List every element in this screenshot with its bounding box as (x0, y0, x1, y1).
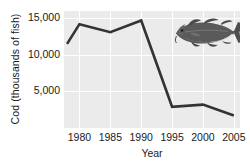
x-axis-tick-label: 2005 (214, 131, 250, 144)
plot-area (64, 11, 240, 128)
x-axis-title: Year (64, 147, 240, 159)
fish-icon (168, 17, 240, 49)
y-axis-tick-label: 10,000 (8, 49, 60, 60)
x-axis-tick-labels: 198019851990199520002005 (64, 131, 240, 145)
cod-population-line-chart: Cod (thousands of fish) 5,00010,00015,00… (0, 0, 250, 165)
y-axis-tick-labels: 5,00010,00015,000 (8, 0, 60, 165)
y-axis-tick-label: 5,000 (8, 85, 60, 96)
y-axis-tick-label: 15,000 (8, 12, 60, 23)
